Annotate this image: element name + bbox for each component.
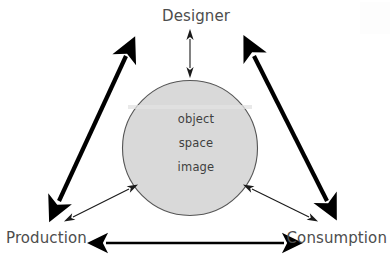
center-term-image: image	[0, 161, 392, 174]
diagram-graphics	[0, 0, 392, 265]
node-label-designer: Designer	[0, 8, 392, 25]
diagram-canvas: Designer Production Consumption object s…	[0, 0, 392, 265]
scan-band	[128, 105, 252, 109]
center-term-space: space	[0, 137, 392, 150]
center-term-object: object	[0, 113, 392, 126]
node-label-consumption: Consumption	[287, 230, 387, 247]
connector-designer-consumption	[254, 56, 327, 201]
connector-center-consumption	[252, 189, 309, 217]
connector-production-designer	[59, 56, 126, 201]
node-label-production: Production	[6, 230, 87, 247]
connector-production-center	[73, 189, 129, 217]
